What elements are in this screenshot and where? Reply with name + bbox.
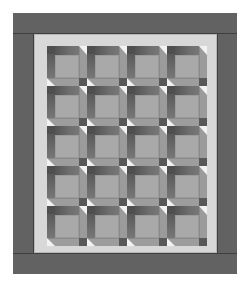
- highlight-triangle-bottom: [47, 118, 55, 126]
- quilt-block: [47, 86, 87, 126]
- quilt: [13, 13, 237, 274]
- block-center: [55, 95, 79, 118]
- block-left-bar: [127, 94, 135, 118]
- highlight-triangle-top: [159, 86, 167, 95]
- block-corner-bottom-right: [199, 198, 207, 206]
- block-top-bar: [175, 166, 199, 175]
- highlight-triangle-bottom: [127, 198, 135, 206]
- block-corner-bottom-right: [119, 238, 127, 246]
- block-corner-bottom-right: [79, 198, 87, 206]
- block-left-bar: [47, 134, 55, 158]
- outer-border-top: [13, 13, 237, 34]
- block-center: [135, 215, 159, 238]
- block-left-bar: [127, 134, 135, 158]
- block-left-bar: [47, 214, 55, 238]
- highlight-triangle-bottom: [127, 118, 135, 126]
- highlight-triangle-bottom: [167, 118, 175, 126]
- block-center: [175, 175, 199, 198]
- quilt-block: [47, 206, 87, 246]
- highlight-triangle-bottom: [87, 118, 95, 126]
- quilt-block: [127, 206, 167, 246]
- block-center: [135, 95, 159, 118]
- block-corner-top-left: [127, 206, 135, 214]
- block-corner-bottom-right: [159, 118, 167, 126]
- highlight-triangle-top: [79, 46, 87, 55]
- highlight-triangle-top: [119, 86, 127, 95]
- block-center: [55, 175, 79, 198]
- block-corner-top-left: [87, 46, 95, 54]
- outer-border-bottom: [13, 253, 237, 274]
- block-corner-top-left: [127, 126, 135, 134]
- block-left-bar: [47, 94, 55, 118]
- highlight-triangle-bottom: [87, 158, 95, 166]
- quilt-block: [47, 126, 87, 166]
- quilt-block: [127, 86, 167, 126]
- block-center: [175, 215, 199, 238]
- highlight-triangle-top: [199, 86, 207, 95]
- quilt-block: [127, 166, 167, 206]
- inner-sashing: [34, 34, 217, 253]
- block-corner-bottom-right: [159, 198, 167, 206]
- quilt-block: [127, 46, 167, 86]
- block-corner-bottom-right: [119, 118, 127, 126]
- highlight-triangle-top: [119, 166, 127, 175]
- block-center: [55, 135, 79, 158]
- quilt-block: [87, 86, 127, 126]
- highlight-triangle-top: [79, 206, 87, 215]
- block-top-bar: [55, 46, 79, 55]
- block-corner-top-left: [47, 166, 55, 174]
- quilt-block: [87, 166, 127, 206]
- block-center: [95, 215, 119, 238]
- highlight-triangle-bottom: [167, 198, 175, 206]
- block-corner-top-left: [87, 166, 95, 174]
- highlight-triangle-bottom: [87, 238, 95, 246]
- block-center: [55, 55, 79, 78]
- quilt-block: [167, 206, 207, 246]
- block-corner-bottom-right: [119, 78, 127, 86]
- block-top-bar: [95, 126, 119, 135]
- block-corner-top-left: [47, 206, 55, 214]
- block-corner-top-left: [127, 86, 135, 94]
- block-left-bar: [167, 94, 175, 118]
- block-corner-top-left: [127, 166, 135, 174]
- outer-border-left: [13, 34, 34, 253]
- block-corner-top-left: [167, 166, 175, 174]
- block-top-bar: [95, 46, 119, 55]
- block-top-bar: [95, 166, 119, 175]
- highlight-triangle-top: [79, 166, 87, 175]
- block-center: [95, 175, 119, 198]
- block-top-bar: [135, 126, 159, 135]
- block-top-bar: [95, 206, 119, 215]
- highlight-triangle-top: [119, 206, 127, 215]
- block-left-bar: [167, 174, 175, 198]
- block-corner-bottom-right: [119, 158, 127, 166]
- highlight-triangle-top: [79, 126, 87, 135]
- quilt-block: [127, 126, 167, 166]
- block-corner-bottom-right: [199, 158, 207, 166]
- highlight-triangle-top: [159, 206, 167, 215]
- block-left-bar: [87, 134, 95, 158]
- highlight-triangle-top: [199, 126, 207, 135]
- highlight-triangle-top: [159, 166, 167, 175]
- block-corner-top-left: [87, 126, 95, 134]
- quilt-block: [87, 206, 127, 246]
- quilt-block: [47, 46, 87, 86]
- highlight-triangle-bottom: [47, 78, 55, 86]
- highlight-triangle-top: [199, 46, 207, 55]
- block-top-bar: [135, 86, 159, 95]
- highlight-triangle-bottom: [167, 158, 175, 166]
- block-top-bar: [55, 86, 79, 95]
- block-top-bar: [175, 46, 199, 55]
- highlight-triangle-bottom: [47, 198, 55, 206]
- block-corner-top-left: [87, 86, 95, 94]
- quilt-block: [47, 166, 87, 206]
- block-top-bar: [175, 126, 199, 135]
- highlight-triangle-bottom: [127, 78, 135, 86]
- block-corner-bottom-right: [159, 238, 167, 246]
- block-top-bar: [175, 206, 199, 215]
- highlight-triangle-top: [159, 46, 167, 55]
- quilt-block: [167, 126, 207, 166]
- block-center: [135, 175, 159, 198]
- highlight-triangle-bottom: [127, 238, 135, 246]
- block-corner-bottom-right: [159, 78, 167, 86]
